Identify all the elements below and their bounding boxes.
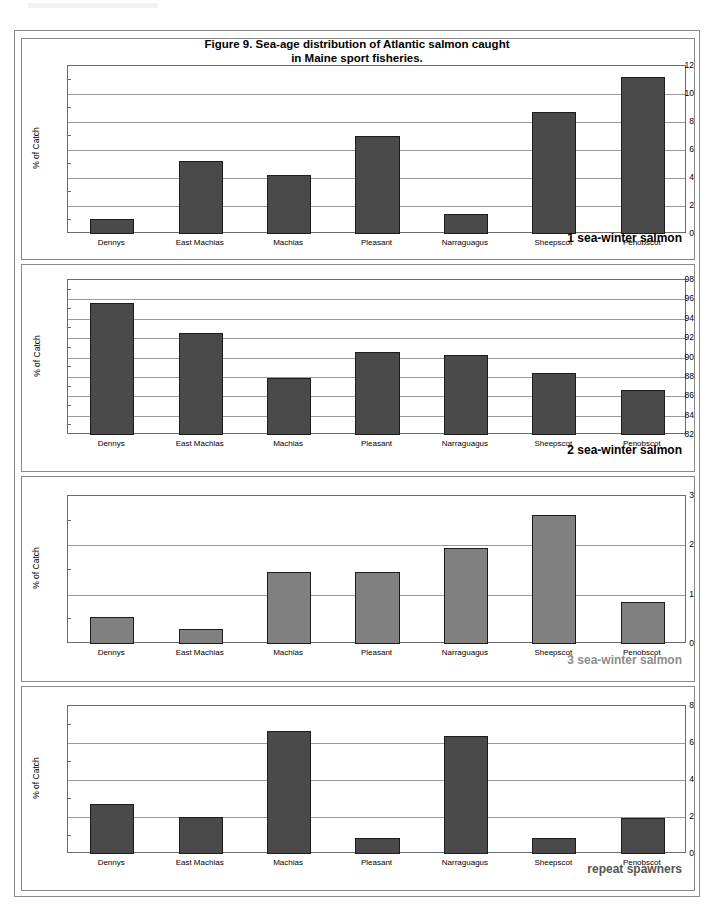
x-axis-tick-label: Pleasant [361, 648, 392, 657]
y-axis-tick-label: 94 [656, 313, 694, 323]
y-axis-tick-label: 86 [656, 390, 694, 400]
y-axis-tick-label: 2 [656, 811, 694, 821]
bar [532, 515, 576, 644]
y-axis-tick-label: 0 [656, 638, 694, 648]
figure-outer-frame: Figure 9. Sea-age distribution of Atlant… [14, 30, 700, 897]
y-axis-tick-label: 6 [656, 737, 694, 747]
chart-area: 828486889092949698% of CatchDennysEast M… [22, 265, 694, 471]
chart-caption: 3 sea-winter salmon [567, 653, 682, 667]
y-axis-minor-tick [67, 327, 71, 328]
bar [621, 77, 665, 235]
bar [532, 373, 576, 435]
x-axis-tick-label: Narraguagus [442, 238, 488, 247]
y-axis-tick-label: 3 [656, 490, 694, 500]
gridline [68, 545, 685, 546]
bar [267, 731, 311, 854]
scan-artifact [28, 3, 158, 8]
chart-panel-2-sea-winter: 828486889092949698% of CatchDennysEast M… [21, 264, 695, 472]
x-axis-tick-label: Machias [273, 858, 303, 867]
gridline [68, 94, 685, 95]
y-axis-tick-label: 6 [656, 144, 694, 154]
bar [267, 378, 311, 435]
y-axis-minor-tick [67, 520, 71, 521]
x-axis-tick-label: Dennys [98, 238, 125, 247]
plot-area [67, 495, 686, 643]
y-axis-title: % of Catch [31, 64, 41, 232]
gridline [68, 780, 685, 781]
x-axis-tick-label: East Machias [176, 238, 224, 247]
y-axis-minor-tick [67, 761, 71, 762]
bar [179, 161, 223, 234]
x-axis-tick-label: Narraguagus [442, 858, 488, 867]
chart-caption: 1 sea-winter salmon [567, 231, 682, 245]
bar [355, 352, 399, 435]
bar [90, 303, 134, 435]
chart-area: 0123% of CatchDennysEast MachiasMachiasP… [22, 477, 694, 681]
chart-caption: 2 sea-winter salmon [567, 443, 682, 457]
y-axis-title: % of Catch [31, 494, 41, 642]
y-axis-minor-tick [67, 308, 71, 309]
gridline [68, 338, 685, 339]
y-axis-minor-tick [67, 424, 71, 425]
x-axis-tick-label: Pleasant [361, 858, 392, 867]
bar [355, 572, 399, 644]
bar [355, 136, 399, 234]
y-axis-minor-tick [67, 618, 71, 619]
x-axis-tick-label: Machias [273, 439, 303, 448]
chart-area: 024681012% of CatchDennysEast MachiasMac… [22, 39, 694, 259]
y-axis-minor-tick [67, 107, 71, 108]
y-axis-tick-label: 0 [656, 848, 694, 858]
bar [444, 548, 488, 644]
bar [90, 804, 134, 854]
figure-title: Figure 9. Sea-age distribution of Atlant… [15, 37, 699, 65]
y-axis-minor-tick [67, 798, 71, 799]
y-axis-minor-tick [67, 405, 71, 406]
figure-page: Figure 9. Sea-age distribution of Atlant… [0, 0, 715, 912]
y-axis-tick-label: 1 [656, 589, 694, 599]
plot-area [67, 705, 686, 853]
y-axis-tick-label: 2 [656, 200, 694, 210]
y-axis-tick-label: 98 [656, 274, 694, 284]
y-axis-tick-label: 8 [656, 700, 694, 710]
x-axis-tick-label: Sheepscot [534, 858, 572, 867]
y-axis-tick-label: 4 [656, 774, 694, 784]
chart-caption: repeat spawners [587, 862, 682, 876]
x-axis-tick-label: Machias [273, 238, 303, 247]
y-axis-tick-label: 84 [656, 410, 694, 420]
y-axis-tick-label: 90 [656, 352, 694, 362]
y-axis-minor-tick [67, 835, 71, 836]
bar [179, 817, 223, 854]
y-axis-tick-label: 4 [656, 172, 694, 182]
chart-panel-repeat-spawners: 02468% of CatchDennysEast MachiasMachias… [21, 686, 695, 891]
bar [179, 333, 223, 435]
y-axis-tick-label: 88 [656, 371, 694, 381]
x-axis-tick-label: East Machias [176, 648, 224, 657]
bar [179, 629, 223, 644]
y-axis-minor-tick [67, 79, 71, 80]
gridline [68, 743, 685, 744]
figure-title-line-1: Figure 9. Sea-age distribution of Atlant… [15, 37, 699, 51]
y-axis-minor-tick [67, 163, 71, 164]
y-axis-minor-tick [67, 386, 71, 387]
y-axis-tick-label: 2 [656, 539, 694, 549]
bar [90, 219, 134, 234]
bar [532, 838, 576, 854]
bar [444, 736, 488, 854]
bar [532, 112, 576, 235]
y-axis-minor-tick [67, 347, 71, 348]
bar [444, 355, 488, 435]
bar [90, 617, 134, 644]
chart-panel-1-sea-winter: 024681012% of CatchDennysEast MachiasMac… [21, 38, 695, 260]
x-axis-tick-label: Pleasant [361, 439, 392, 448]
bar [355, 838, 399, 854]
x-axis-tick-label: Narraguagus [442, 648, 488, 657]
gridline [68, 817, 685, 818]
x-axis-tick-label: Dennys [98, 858, 125, 867]
bar [267, 572, 311, 644]
x-axis-tick-label: East Machias [176, 858, 224, 867]
bar [267, 175, 311, 234]
y-axis-minor-tick [67, 289, 71, 290]
y-axis-minor-tick [67, 219, 71, 220]
y-axis-minor-tick [67, 135, 71, 136]
y-axis-tick-label: 8 [656, 116, 694, 126]
